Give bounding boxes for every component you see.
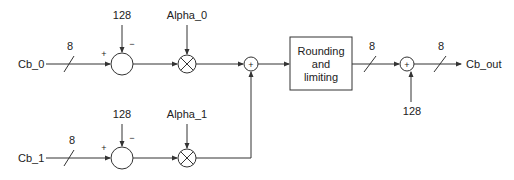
adder-final-symbol: + (404, 60, 409, 70)
bus-width-after-block: 8 (369, 40, 375, 52)
adder-main: + (244, 57, 258, 71)
offset-label-bottom: 128 (113, 108, 131, 120)
block-label-line1: Rounding (297, 45, 344, 57)
offset-label-final: 128 (403, 105, 421, 117)
output-label: Cb_out (466, 58, 501, 70)
plus-sign-bottom: + (101, 143, 106, 153)
rounding-limiting-block: Rounding and limiting (290, 37, 352, 90)
weight-label-top: Alpha_0 (167, 9, 207, 21)
bus-width-output: 8 (438, 40, 444, 52)
minus-sign-top: − (129, 39, 134, 49)
plus-sign-top: + (101, 49, 106, 59)
subtractor-top (111, 53, 133, 75)
multiplier-bottom (178, 149, 196, 167)
subtractor-bottom (111, 147, 133, 169)
multiplier-top (178, 55, 196, 73)
adder-main-symbol: + (248, 60, 253, 70)
bus-width-input-bottom: 8 (69, 134, 75, 146)
weight-label-bottom: Alpha_1 (167, 108, 207, 120)
input-label-bottom: Cb_1 (18, 152, 44, 164)
adder-final: + (400, 57, 414, 71)
bus-width-input-top: 8 (67, 40, 73, 52)
block-label-line3: limiting (304, 71, 338, 83)
minus-sign-bottom: − (129, 133, 134, 143)
blending-diagram: Cb_0 8 + − 128 Alpha_0 + Rounding and li… (0, 0, 514, 180)
offset-label-top: 128 (113, 9, 131, 21)
input-label-top: Cb_0 (18, 58, 44, 70)
block-label-line2: and (312, 58, 330, 70)
